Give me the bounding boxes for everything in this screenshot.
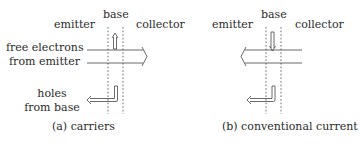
holes-arrow <box>90 86 115 99</box>
base-current-lower-arrow <box>250 86 272 99</box>
diagram-graphics <box>0 0 360 148</box>
holes-arrowhead <box>87 96 91 104</box>
base-up-arrowhead <box>112 33 118 38</box>
lower-arrowhead-b <box>247 96 251 104</box>
